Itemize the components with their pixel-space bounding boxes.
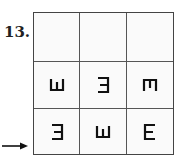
e-rotated-down-icon xyxy=(142,78,158,92)
e-mirrored-icon xyxy=(50,123,64,141)
e-mirrored-icon xyxy=(96,76,110,94)
right-arrow-icon xyxy=(2,142,28,150)
grid-cell-r3c1 xyxy=(34,109,80,154)
e-rotated-up-icon xyxy=(49,78,65,92)
grid-cell-r1c2 xyxy=(80,13,126,62)
problem-number: 13. xyxy=(4,23,30,41)
grid-cell-r2c2 xyxy=(80,62,126,109)
e-rotated-up-icon xyxy=(95,125,111,139)
grid-cell-r3c2 xyxy=(80,109,126,154)
grid-cell-r2c3 xyxy=(127,62,173,109)
grid-cell-r2c1 xyxy=(34,62,80,109)
grid-cell-r1c3 xyxy=(127,13,173,62)
e-normal-icon xyxy=(143,123,157,141)
grid-cell-r1c1 xyxy=(34,13,80,62)
grid-cell-r3c3 xyxy=(127,109,173,154)
letter-grid xyxy=(33,12,174,155)
